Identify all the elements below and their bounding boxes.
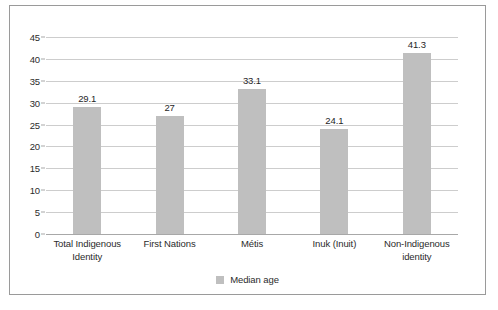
bar-slot: 24.1 [293,37,375,234]
y-axis-tick-mark [41,80,45,81]
y-axis-tick-label: 15 [30,163,40,174]
bar[interactable] [320,129,348,235]
bar-value-label: 27 [164,102,174,113]
gridline [46,234,458,235]
y-axis-tick-mark [41,37,45,38]
plot-area: 051015202530354045 29.12733.124.141.3 [46,37,458,234]
bar-value-label: 29.1 [78,93,96,104]
y-axis-tick-mark [41,58,45,59]
x-axis-label-line: Identity [46,251,128,264]
y-axis-tick-label: 25 [30,119,40,130]
y-axis-tick-mark [41,190,45,191]
legend-swatch-median-age [216,276,224,284]
bar-value-label: 41.3 [408,39,426,50]
bar[interactable] [238,89,266,234]
bar-slot: 27 [128,37,210,234]
x-axis-labels: Total IndigenousIdentityFirst NationsMét… [46,238,458,272]
x-axis-label-line: Métis [211,238,293,251]
x-axis-label-line: Non-Indigenous [376,238,458,251]
chart-legend: Median age [10,274,485,285]
x-axis-label: Non-Indigenousidentity [376,238,458,263]
y-axis-tick-mark [41,212,45,213]
y-axis-tick-mark [41,102,45,103]
y-axis-tick-mark [41,168,45,169]
x-axis-label-line: Inuk (Inuit) [293,238,375,251]
chart-frame: 051015202530354045 29.12733.124.141.3 To… [9,5,486,295]
bar[interactable] [403,53,431,234]
y-axis-tick-label: 5 [35,207,40,218]
bar-value-label: 24.1 [325,115,343,126]
bar-slot: 33.1 [211,37,293,234]
y-axis-tick-label: 20 [30,141,40,152]
bar-slot: 29.1 [46,37,128,234]
bar[interactable] [156,116,184,234]
y-axis-tick-label: 45 [30,32,40,43]
y-axis-tick-label: 35 [30,75,40,86]
y-axis-tick-mark [41,234,45,235]
y-axis-tick-mark [41,124,45,125]
y-axis-tick-label: 40 [30,53,40,64]
x-axis-label-line: First Nations [128,238,210,251]
y-axis-tick-label: 0 [35,229,40,240]
x-axis-label-line: Total Indigenous [46,238,128,251]
bar[interactable] [73,107,101,234]
y-axis-tick-mark [41,146,45,147]
x-axis-label-line: identity [376,251,458,264]
x-axis-label: Inuk (Inuit) [293,238,375,251]
x-axis-label: First Nations [128,238,210,251]
x-axis-label: Métis [211,238,293,251]
bar-value-label: 33.1 [243,75,261,86]
x-axis-label: Total IndigenousIdentity [46,238,128,263]
bar-slot: 41.3 [376,37,458,234]
legend-label-median-age: Median age [230,274,279,285]
y-axis-tick-label: 30 [30,97,40,108]
y-axis-tick-label: 10 [30,185,40,196]
